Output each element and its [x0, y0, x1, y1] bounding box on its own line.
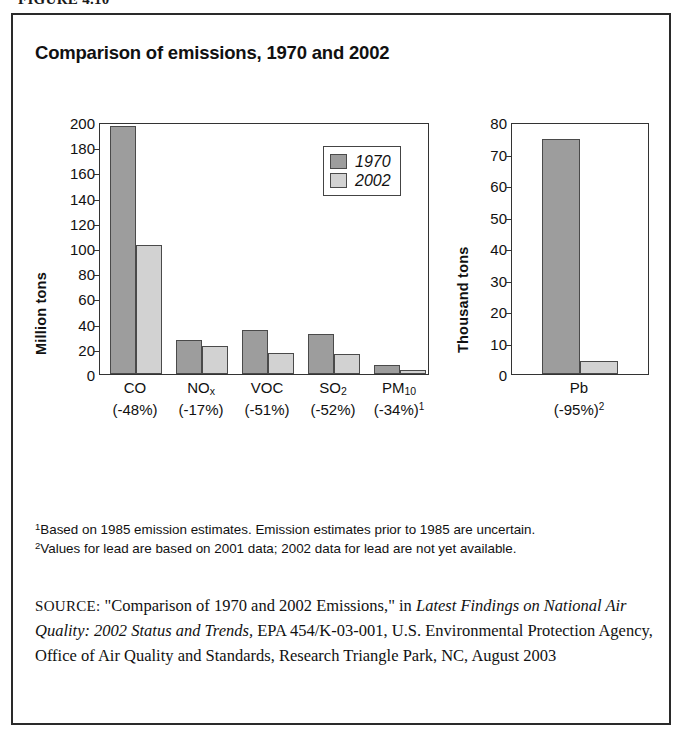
figure-box: Comparison of emissions, 1970 and 2002 M… [11, 13, 671, 725]
legend-swatch-1970 [330, 154, 347, 169]
y-tick-mark-right [506, 282, 512, 283]
footnotes: 1Based on 1985 emission estimates. Emiss… [35, 520, 647, 559]
category-name: NOx [168, 377, 234, 399]
bar-pb-1970 [542, 139, 580, 374]
bar-co-1970 [110, 126, 136, 374]
source-label: SOURCE: [35, 598, 100, 614]
bar-group [176, 124, 228, 374]
category-name: VOC [234, 377, 300, 399]
footnote: 2Values for lead are based on 2001 data;… [35, 539, 647, 558]
category-percent-change: (-48%) [102, 399, 168, 421]
bar-group [242, 124, 294, 374]
y-axis-label-left: Million tons [33, 195, 49, 355]
x-axis-labels-left: CO(-48%)NOx(-17%)VOC(-51%)SO2(-52%)PM10(… [99, 377, 429, 429]
x-category-label: SO2(-52%) [300, 377, 366, 421]
category-percent-change: (-51%) [234, 399, 300, 421]
y-tick-label-right: 70 [490, 146, 507, 163]
y-tick-label-left: 20 [78, 341, 95, 358]
x-axis-labels-right: Pb(-95%)2 [511, 377, 649, 429]
category-name: SO2 [300, 377, 366, 399]
y-tick-label-left: 160 [70, 165, 95, 182]
y-tick-label-right: 80 [490, 115, 507, 132]
y-tick-mark-left [94, 200, 100, 201]
footnote-text: Values for lead are based on 2001 data; … [40, 541, 516, 556]
bar-so2-2002 [334, 354, 360, 374]
category-name: Pb [539, 377, 619, 399]
legend-label-2002: 2002 [355, 172, 391, 190]
panel-criteria-pollutants: Million tons 020406080100120140160180200… [31, 123, 435, 423]
category-subscript: 2 [341, 385, 347, 397]
y-tick-label-right: 40 [490, 241, 507, 258]
bar-co-2002 [136, 245, 162, 374]
x-category-label: PM10(-34%)1 [366, 377, 432, 421]
bar-nox-2002 [202, 346, 228, 374]
category-subscript: x [210, 385, 215, 397]
y-tick-label-left: 100 [70, 241, 95, 258]
y-tick-label-left: 40 [78, 316, 95, 333]
legend-item-2002: 2002 [330, 171, 391, 190]
x-category-label: VOC(-51%) [234, 377, 300, 421]
plot-area-right [511, 123, 649, 375]
category-percent-change: (-95%)2 [539, 399, 619, 421]
panel-lead: Thousand tons 01020304050607080 Pb(-95%)… [453, 123, 653, 423]
category-percent-change: (-52%) [300, 399, 366, 421]
footnote-text: Based on 1985 emission estimates. Emissi… [40, 522, 535, 537]
source-part1: "Comparison of 1970 and 2002 Emissions,"… [100, 596, 416, 615]
y-tick-label-left: 200 [70, 115, 95, 132]
category-percent-change: (-17%) [168, 399, 234, 421]
y-axis-label-right: Thousand tons [455, 193, 471, 353]
source-note: SOURCE: "Comparison of 1970 and 2002 Emi… [35, 593, 655, 668]
category-name: CO [102, 377, 168, 399]
y-tick-mark-left [94, 174, 100, 175]
y-tick-label-right: 20 [490, 304, 507, 321]
y-tick-mark-right [506, 345, 512, 346]
category-subscript: 10 [404, 385, 416, 397]
bar-group [542, 124, 618, 374]
y-tick-label-left: 60 [78, 291, 95, 308]
category-percent-change: (-34%)1 [366, 399, 432, 421]
y-tick-mark-right [506, 156, 512, 157]
y-axis-ticklabels-right: 01020304050607080 [473, 123, 507, 375]
bar-voc-2002 [268, 353, 294, 374]
x-category-label: NOx(-17%) [168, 377, 234, 421]
y-tick-label-left: 0 [87, 367, 95, 384]
footnote-marker: 2 [599, 401, 605, 412]
y-tick-mark-left [94, 351, 100, 352]
bar-pm10-2002 [400, 370, 426, 374]
y-tick-label-right: 60 [490, 178, 507, 195]
footnote-marker: 1 [419, 401, 425, 412]
y-tick-mark-left [94, 149, 100, 150]
legend-swatch-2002 [330, 173, 347, 188]
chart-legend: 1970 2002 [323, 146, 401, 196]
y-tick-mark-left [94, 326, 100, 327]
bar-pm10-1970 [374, 365, 400, 374]
figure-number: FIGURE 4.10 [18, 0, 110, 8]
y-tick-label-left: 140 [70, 190, 95, 207]
bar-so2-1970 [308, 334, 334, 374]
bar-voc-1970 [242, 330, 268, 374]
legend-item-1970: 1970 [330, 152, 391, 171]
y-tick-label-left: 120 [70, 215, 95, 232]
footnote: 1Based on 1985 emission estimates. Emiss… [35, 520, 647, 539]
y-tick-label-left: 180 [70, 140, 95, 157]
y-tick-mark-right [506, 219, 512, 220]
figure-inner: Comparison of emissions, 1970 and 2002 M… [13, 15, 669, 723]
y-tick-label-right: 30 [490, 272, 507, 289]
y-tick-mark-left [94, 250, 100, 251]
bar-group [110, 124, 162, 374]
category-name: PM10 [366, 377, 432, 399]
y-axis-ticklabels-left: 020406080100120140160180200 [53, 123, 95, 375]
y-tick-label-right: 10 [490, 335, 507, 352]
y-tick-label-right: 0 [499, 367, 507, 384]
y-tick-label-left: 80 [78, 266, 95, 283]
bars-right [512, 124, 648, 374]
legend-label-1970: 1970 [355, 153, 391, 171]
charts-area: Million tons 020406080100120140160180200… [13, 123, 669, 423]
x-category-label: Pb(-95%)2 [539, 377, 619, 421]
y-tick-mark-left [94, 225, 100, 226]
bar-pb-2002 [580, 361, 618, 374]
x-category-label: CO(-48%) [102, 377, 168, 421]
y-tick-mark-left [94, 275, 100, 276]
chart-title: Comparison of emissions, 1970 and 2002 [35, 42, 389, 64]
y-tick-mark-left [94, 300, 100, 301]
